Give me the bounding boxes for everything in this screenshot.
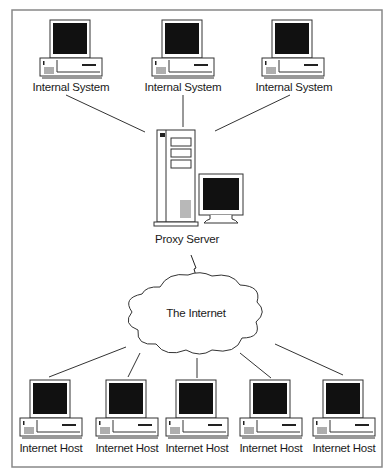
computer-icon bbox=[166, 380, 228, 438]
computer-icon bbox=[240, 380, 302, 438]
internet-host-3: Internet Host bbox=[165, 380, 229, 454]
computer-icon bbox=[152, 20, 214, 78]
internal-system-label: Internal System bbox=[33, 81, 110, 93]
internal-system-3: Internal System bbox=[256, 20, 333, 93]
monitor-icon bbox=[199, 174, 243, 223]
internet-cloud: The Internet bbox=[128, 273, 262, 354]
network-diagram: Internal System Internal System Internal… bbox=[0, 0, 391, 475]
internet-host-label: Internet Host bbox=[165, 442, 229, 454]
internet-host-2: Internet Host bbox=[95, 380, 159, 454]
server-tower-icon bbox=[154, 130, 198, 226]
proxy-server: Proxy Server bbox=[154, 130, 243, 245]
internet-cloud-label: The Internet bbox=[166, 307, 227, 319]
internet-host-label: Internet Host bbox=[19, 442, 83, 454]
computer-icon bbox=[313, 380, 375, 438]
computer-icon bbox=[96, 380, 158, 438]
computer-icon bbox=[20, 380, 82, 438]
internal-system-2: Internal System bbox=[145, 20, 222, 93]
internal-system-1: Internal System bbox=[33, 20, 110, 93]
proxy-server-label: Proxy Server bbox=[155, 233, 219, 245]
internet-host-1: Internet Host bbox=[19, 380, 83, 454]
internal-system-label: Internal System bbox=[256, 81, 333, 93]
computer-icon bbox=[262, 20, 324, 78]
computer-icon bbox=[40, 20, 102, 78]
internet-host-5: Internet Host bbox=[312, 380, 376, 454]
internet-host-label: Internet Host bbox=[95, 442, 159, 454]
internet-host-label: Internet Host bbox=[239, 442, 303, 454]
internet-host-4: Internet Host bbox=[239, 380, 303, 454]
internet-host-label: Internet Host bbox=[312, 442, 376, 454]
internal-system-label: Internal System bbox=[145, 81, 222, 93]
internal-connections bbox=[66, 95, 290, 132]
